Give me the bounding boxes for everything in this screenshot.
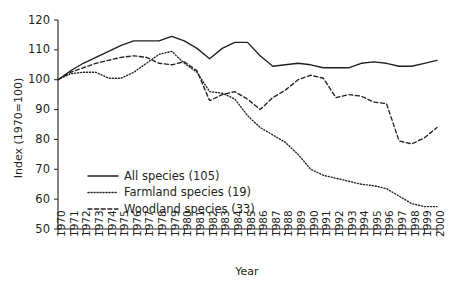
y-tick-label: 80 bbox=[35, 132, 50, 146]
x-tick-label: 1987 bbox=[270, 210, 282, 237]
x-tick-label: 1997 bbox=[396, 210, 408, 237]
legend-label: Woodland species (33) bbox=[124, 202, 255, 216]
y-tick-label: 120 bbox=[28, 13, 50, 27]
series-group bbox=[58, 36, 437, 206]
y-tick-label: 100 bbox=[28, 72, 50, 86]
series-line-dashed bbox=[58, 56, 437, 144]
line-chart: 5060708090100110120 19701971197219731974… bbox=[0, 0, 452, 285]
y-axis: 5060708090100110120 bbox=[28, 13, 58, 236]
x-tick-label: 1991 bbox=[320, 210, 332, 237]
y-tick-group: 5060708090100110120 bbox=[28, 13, 58, 236]
x-tick-label: 1974 bbox=[106, 210, 118, 237]
x-tick-label: 1998 bbox=[409, 210, 421, 237]
x-tick-label: 1972 bbox=[80, 210, 92, 237]
x-tick-label: 1988 bbox=[282, 210, 294, 237]
chart-container: 5060708090100110120 19701971197219731974… bbox=[0, 0, 452, 285]
x-tick-label: 1992 bbox=[333, 210, 345, 237]
y-tick-label: 90 bbox=[35, 102, 50, 116]
x-tick-label: 1990 bbox=[308, 210, 320, 237]
x-tick-label: 1995 bbox=[371, 210, 383, 237]
x-tick-label: 1970 bbox=[55, 210, 67, 237]
x-tick-label: 1971 bbox=[68, 210, 80, 237]
series-line-solid bbox=[58, 36, 437, 79]
series-line-dotted bbox=[58, 51, 437, 206]
x-tick-label: 1993 bbox=[346, 210, 358, 237]
x-tick-label: 1999 bbox=[421, 210, 433, 237]
y-tick-label: 50 bbox=[35, 222, 50, 236]
x-tick-label: 1994 bbox=[358, 210, 370, 237]
y-tick-label: 60 bbox=[35, 192, 50, 206]
legend-label: All species (105) bbox=[124, 169, 219, 183]
y-tick-label: 70 bbox=[35, 162, 50, 176]
x-tick-label: 1986 bbox=[257, 210, 269, 237]
x-tick-label: 1989 bbox=[295, 210, 307, 237]
x-tick-label: 1996 bbox=[383, 210, 395, 237]
x-tick-label: 2000 bbox=[434, 210, 446, 237]
y-tick-label: 110 bbox=[28, 42, 50, 56]
x-axis-title: Year bbox=[234, 265, 259, 278]
x-tick-label: 1973 bbox=[93, 210, 105, 237]
y-axis-title: Index (1970=100) bbox=[12, 78, 25, 179]
legend-label: Farmland species (19) bbox=[124, 185, 251, 199]
chart-legend: All species (105)Farmland species (19)Wo… bbox=[88, 169, 255, 216]
